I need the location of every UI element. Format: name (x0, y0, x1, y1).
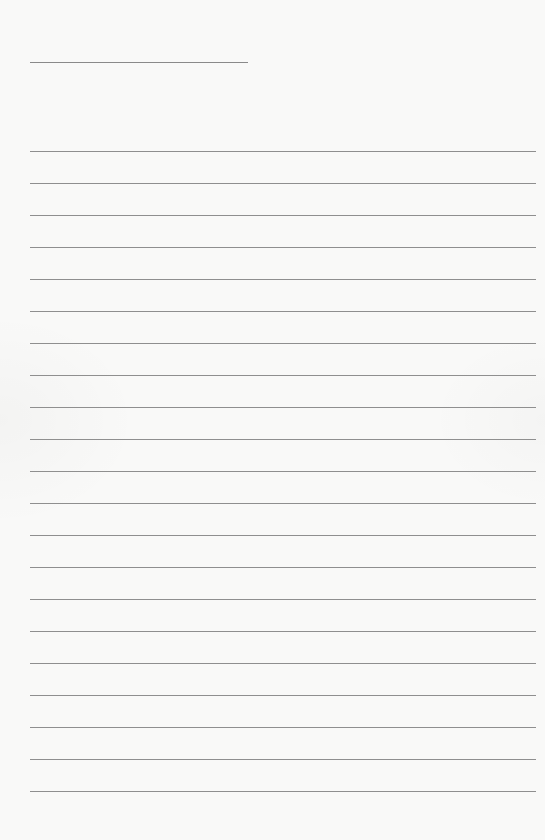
ruled-line (30, 183, 536, 184)
ruled-line (30, 471, 536, 472)
ruled-line (30, 151, 536, 152)
ruled-line (30, 279, 536, 280)
ruled-line (30, 439, 536, 440)
ruled-line (30, 407, 536, 408)
lined-paper-page (0, 0, 545, 840)
ruled-line (30, 599, 536, 600)
ruled-line (30, 375, 536, 376)
ruled-line (30, 343, 536, 344)
ruled-line (30, 503, 536, 504)
ruled-line (30, 631, 536, 632)
ruled-line (30, 791, 536, 792)
ruled-line (30, 311, 536, 312)
ruled-line (30, 215, 536, 216)
ruled-line (30, 727, 536, 728)
ruled-line (30, 663, 536, 664)
ruled-lines-area (30, 0, 536, 840)
ruled-line (30, 567, 536, 568)
ruled-line (30, 247, 536, 248)
ruled-line (30, 759, 536, 760)
ruled-line (30, 695, 536, 696)
ruled-line (30, 535, 536, 536)
